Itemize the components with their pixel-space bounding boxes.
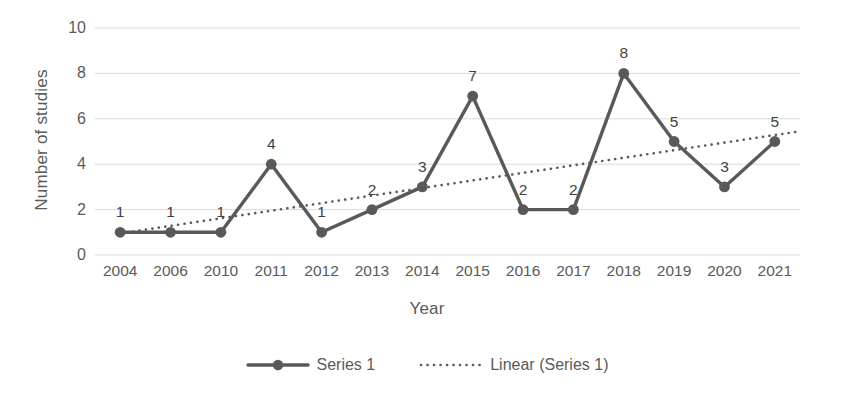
data-point-marker: [266, 159, 277, 170]
data-point-marker: [719, 182, 730, 193]
data-label: 1: [116, 203, 125, 221]
legend-key-line-marker: [246, 357, 310, 373]
x-tick-label: 2011: [255, 262, 288, 280]
legend-label-linear-series-1: Linear (Series 1): [490, 356, 608, 374]
series-1-markers: [115, 68, 780, 238]
x-tick-label: 2012: [304, 262, 338, 280]
data-label: 8: [619, 44, 628, 62]
legend-key-dotted-line: [419, 357, 483, 373]
chart-legend: Series 1 Linear (Series 1): [0, 356, 854, 374]
data-label: 2: [368, 181, 377, 199]
x-tick-label: 2018: [607, 262, 641, 280]
data-point-marker: [417, 182, 428, 193]
data-point-marker: [769, 136, 780, 147]
data-point-marker: [518, 204, 529, 215]
data-label: 5: [771, 113, 780, 131]
data-label: 3: [418, 158, 427, 176]
data-label: 1: [317, 203, 326, 221]
x-axis-tick-labels: 2004200620102011201220132014201520162017…: [0, 262, 854, 286]
x-tick-label: 2017: [556, 262, 590, 280]
legend-label-series-1: Series 1: [317, 356, 376, 374]
legend-item-linear-series-1[interactable]: Linear (Series 1): [419, 356, 608, 374]
data-label: 5: [670, 113, 679, 131]
x-tick-label: 2021: [758, 262, 792, 280]
x-tick-label: 2020: [707, 262, 741, 280]
x-tick-label: 2015: [455, 262, 489, 280]
chart-container: Number of studies 0246810 11141237228535…: [0, 0, 854, 410]
data-label: 2: [519, 181, 528, 199]
data-point-marker: [215, 227, 226, 238]
data-point-marker: [467, 91, 478, 102]
data-point-marker: [165, 227, 176, 238]
x-tick-label: 2014: [405, 262, 439, 280]
x-tick-label: 2013: [355, 262, 389, 280]
data-point-marker: [367, 204, 378, 215]
data-point-marker: [618, 68, 629, 79]
data-point-marker: [568, 204, 579, 215]
data-label: 2: [569, 181, 578, 199]
x-tick-label: 2019: [657, 262, 691, 280]
x-tick-label: 2004: [103, 262, 137, 280]
data-point-marker: [669, 136, 680, 147]
data-label: 3: [720, 158, 729, 176]
data-point-marker: [316, 227, 327, 238]
x-tick-label: 2006: [153, 262, 187, 280]
data-label: 1: [166, 203, 175, 221]
data-label: 1: [217, 203, 226, 221]
x-tick-label: 2016: [506, 262, 540, 280]
plot-area: [0, 0, 854, 410]
x-axis-title: Year: [0, 299, 854, 319]
data-point-marker: [115, 227, 126, 238]
data-label: 7: [468, 67, 477, 85]
legend-item-series-1[interactable]: Series 1: [246, 356, 376, 374]
data-label: 4: [267, 135, 276, 153]
x-tick-label: 2010: [204, 262, 238, 280]
